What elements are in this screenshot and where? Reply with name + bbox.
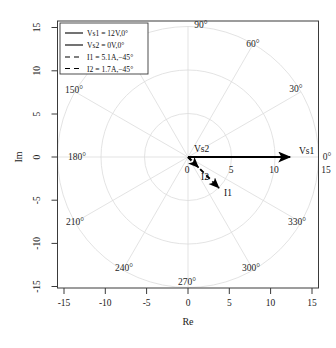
- angle-label-240: 240°: [115, 263, 133, 273]
- phasor-label-vs1: Vs1: [299, 146, 315, 156]
- x-tick-label-5: 10: [266, 298, 276, 308]
- phasor-label-vs2: Vs2: [194, 144, 210, 154]
- radial-tick-0: 0: [185, 165, 190, 175]
- angle-label-300: 300°: [242, 263, 260, 273]
- y-tick-label-5: -10: [32, 237, 42, 250]
- angle-label-180: 180°: [68, 152, 86, 162]
- angle-label-0: 0°: [323, 152, 332, 162]
- angle-label-90: 90°: [194, 20, 208, 30]
- y-tick-label-2: 5: [32, 111, 42, 116]
- figure-background: [0, 0, 336, 348]
- radial-tick-5: 5: [229, 165, 234, 175]
- angle-label-30: 30°: [289, 84, 303, 94]
- angle-label-210: 210°: [66, 217, 84, 227]
- x-tick-label-1: -10: [99, 298, 112, 308]
- x-tick-label-2: -5: [143, 298, 151, 308]
- x-tick-label-0: -15: [58, 298, 71, 308]
- y-tick-label-1: 10: [32, 66, 42, 76]
- angle-label-150: 150°: [65, 85, 83, 95]
- legend-label-i2: I2 = 1.7A,−45°: [87, 65, 133, 74]
- y-tick-label-0: 15: [32, 23, 42, 33]
- phasor-label-i2: I2: [201, 172, 209, 182]
- angle-label-60: 60°: [246, 39, 260, 49]
- y-tick-label-4: -5: [32, 196, 42, 204]
- polar-plot-svg: -15 -10 -5 0 5 10 15 Re 15 10 5 0 -5 -10…: [0, 0, 336, 348]
- y-axis-title: Im: [13, 151, 24, 162]
- x-axis-title: Re: [182, 316, 194, 327]
- polar-phasor-figure: -15 -10 -5 0 5 10 15 Re 15 10 5 0 -5 -10…: [0, 0, 336, 348]
- legend: Vs1 = 12V,0° Vs2 = 0V,0° I1 = 5.1A,−45° …: [60, 23, 148, 74]
- radial-tick-15: 15: [321, 165, 331, 175]
- y-tick-label-6: -15: [32, 280, 42, 293]
- x-tick-label-3: 0: [186, 298, 191, 308]
- angle-label-270: 270°: [178, 277, 196, 287]
- legend-label-i1: I1 = 5.1A,−45°: [87, 53, 133, 62]
- phasor-label-i1: I1: [224, 188, 232, 198]
- x-tick-label-6: 15: [307, 298, 317, 308]
- angle-label-330: 330°: [288, 217, 306, 227]
- y-tick-label-3: 0: [32, 154, 42, 159]
- legend-label-vs1: Vs1 = 12V,0°: [87, 29, 128, 38]
- x-tick-label-4: 5: [227, 298, 232, 308]
- legend-label-vs2: Vs2 = 0V,0°: [87, 41, 124, 50]
- radial-tick-10: 10: [269, 165, 279, 175]
